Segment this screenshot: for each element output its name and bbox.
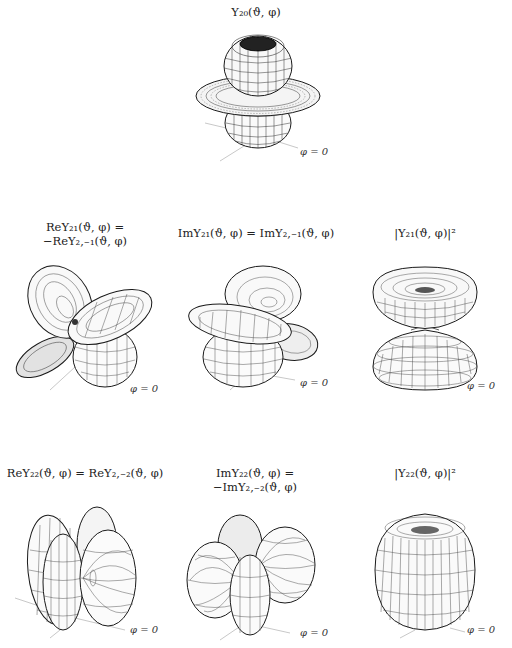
title-line-1: ReY₂₂(ϑ, φ) = ReY₂,₋₂(ϑ, φ) xyxy=(7,466,163,480)
panel-title: |Y₂₁(ϑ, φ)|² xyxy=(385,226,465,240)
phi-zero-label: φ = 0 xyxy=(300,627,328,638)
phi-zero-label: φ = 0 xyxy=(300,377,328,388)
phi-zero-label: φ = 0 xyxy=(130,624,158,635)
phi-zero-label: φ = 0 xyxy=(130,383,158,394)
title-line-2: −ImY₂,₋₂(ϑ, φ) xyxy=(185,480,325,494)
phi-zero-label: φ = 0 xyxy=(300,146,328,157)
phi-zero-label: φ = 0 xyxy=(467,624,495,635)
im-y22-wireframe-plot xyxy=(190,505,340,645)
title-line-1: Y₂₀(ϑ, φ) xyxy=(231,5,280,19)
title-line-1: ImY₂₂(ϑ, φ) = xyxy=(185,466,325,480)
title-line-1: ReY₂₁(ϑ, φ) = xyxy=(10,220,160,234)
phi-zero-label: φ = 0 xyxy=(467,380,495,391)
panel-title: Y₂₀(ϑ, φ) xyxy=(186,5,326,19)
panel-title: ReY₂₁(ϑ, φ) = −ReY₂,₋₁(ϑ, φ) xyxy=(10,220,160,248)
panel-title: ImY₂₁(ϑ, φ) = ImY₂,₋₁(ϑ, φ) xyxy=(176,226,336,240)
abs-y21-sq-wireframe-plot xyxy=(355,262,505,397)
panel-title: |Y₂₂(ϑ, φ)|² xyxy=(385,466,465,480)
re-y22-wireframe-plot xyxy=(15,500,165,640)
title-line-2: −ReY₂,₋₁(ϑ, φ) xyxy=(10,234,160,248)
title-line-1: |Y₂₁(ϑ, φ)|² xyxy=(394,226,456,240)
title-line-1: ImY₂₁(ϑ, φ) = ImY₂,₋₁(ϑ, φ) xyxy=(178,226,334,240)
y20-surface xyxy=(190,28,340,163)
y20-wireframe-plot xyxy=(190,28,340,163)
panel-title: ImY₂₂(ϑ, φ) = −ImY₂,₋₂(ϑ, φ) xyxy=(185,466,325,494)
re-y21-wireframe-plot xyxy=(15,262,165,397)
panel-title: ReY₂₂(ϑ, φ) = ReY₂,₋₂(ϑ, φ) xyxy=(5,466,165,480)
abs-y22-sq-wireframe-plot xyxy=(355,500,505,640)
title-line-1: |Y₂₂(ϑ, φ)|² xyxy=(394,466,456,480)
